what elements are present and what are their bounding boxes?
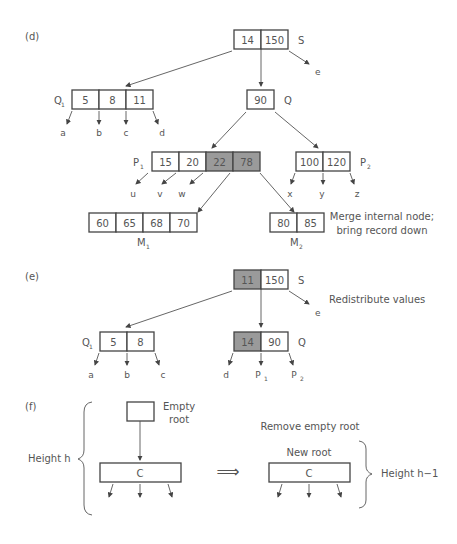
svg-text:c: c [124,128,129,138]
svg-text:b: b [124,370,130,380]
svg-text:C: C [137,468,144,479]
svg-text:1: 1 [140,163,144,170]
node-m2: 80 85 M 2 [270,213,324,250]
svg-text:C: C [306,468,313,479]
node-s-key: 14 [241,35,254,46]
svg-text:70: 70 [177,218,190,229]
panel-e-label: (e) [25,271,39,282]
node-p1: P 1 15 20 22 78 [133,152,260,171]
svg-text:v: v [157,189,163,199]
child-label: e [315,67,321,77]
node-s-label: S [298,35,304,46]
svg-text:90: 90 [268,337,281,348]
node-q: 90 Q [247,90,292,109]
node-s-key: 150 [265,35,284,46]
empty-root-node [127,402,154,421]
svg-text:60: 60 [96,218,109,229]
svg-text:8: 8 [109,95,115,106]
svg-text:Q: Q [284,95,292,106]
empty-root-label: root [169,414,189,425]
node-s: 14 150 S [234,30,304,49]
node-c-right: C [269,463,350,482]
panel-e: (e) 11 150 S e Redistribute values Q 1 5… [25,270,425,382]
svg-text:z: z [355,189,360,199]
svg-text:22: 22 [213,157,226,168]
merge-note: bring record down [336,225,427,236]
svg-text:M: M [290,237,299,248]
svg-text:P: P [133,157,139,168]
panel-d-label: (d) [25,31,39,42]
svg-text:2: 2 [299,243,303,250]
svg-text:5: 5 [82,95,88,106]
new-root-label: New root [286,447,331,458]
svg-text:90: 90 [254,95,267,106]
svg-text:P: P [360,157,366,168]
svg-text:150: 150 [265,275,284,286]
panel-f: (f) Height h Empty root C ⟹ Remove empty… [25,401,438,515]
node-m1: 60 65 68 70 M 1 [89,213,197,250]
svg-text:y: y [319,189,325,199]
node-p2: 100 120 P 2 [296,152,371,171]
brace-right [359,441,372,508]
height-left-label: Height h [28,453,71,464]
svg-text:100: 100 [300,157,319,168]
merge-note: Merge internal node; [330,211,434,222]
svg-text:68: 68 [150,218,163,229]
svg-text:b: b [96,128,102,138]
svg-text:65: 65 [123,218,136,229]
svg-text:Q: Q [298,337,306,348]
svg-text:2: 2 [367,163,371,170]
node-c-left: C [100,463,181,482]
node-s: 11 150 S [234,270,304,289]
svg-text:80: 80 [277,218,290,229]
remove-root-note: Remove empty root [260,421,359,432]
svg-text:d: d [159,128,165,138]
svg-text:d: d [223,370,229,380]
svg-text:P: P [291,370,297,380]
svg-text:11: 11 [133,95,146,106]
svg-text:15: 15 [159,157,172,168]
brace-left [78,402,92,515]
svg-text:S: S [298,275,304,286]
panel-f-label: (f) [25,401,36,412]
svg-text:8: 8 [137,337,143,348]
svg-text:c: c [161,370,166,380]
redistribute-note: Redistribute values [329,294,425,305]
svg-text:x: x [287,189,293,199]
svg-text:a: a [88,370,94,380]
svg-text:1: 1 [146,243,150,250]
svg-text:20: 20 [186,157,199,168]
node-q: 14 90 Q [234,332,306,351]
svg-text:1: 1 [61,101,65,108]
node-q1: Q 1 5 8 [82,332,154,351]
panel-d: (d) 14 150 S e Q 1 5 8 11 a b c [25,30,434,250]
b-tree-deletion-diagram: (d) 14 150 S e Q 1 5 8 11 a b c [0,0,457,544]
transform-arrow-icon: ⟹ [217,462,240,481]
node-q1: Q 1 5 8 11 [54,90,153,109]
svg-text:a: a [60,128,66,138]
svg-text:1: 1 [89,343,93,350]
svg-text:2: 2 [300,375,304,382]
svg-text:u: u [130,189,136,199]
empty-root-label: Empty [163,401,195,412]
svg-text:P: P [255,370,261,380]
svg-text:78: 78 [240,157,253,168]
svg-text:e: e [315,308,321,318]
svg-text:w: w [178,189,185,199]
svg-text:M: M [137,237,146,248]
svg-text:11: 11 [241,275,254,286]
svg-text:120: 120 [327,157,346,168]
svg-text:1: 1 [264,375,268,382]
svg-text:5: 5 [110,337,116,348]
height-right-label: Height h−1 [381,468,438,479]
svg-text:85: 85 [304,218,317,229]
svg-text:14: 14 [241,337,254,348]
